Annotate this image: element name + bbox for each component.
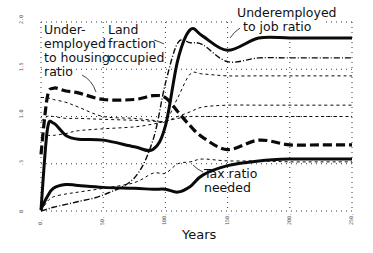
x-tick-label: 200. (286, 213, 292, 225)
y-tick-label: 0 (18, 210, 24, 213)
annotation-line: Tax ratio (203, 166, 257, 181)
annotation-job-ratio: Underemployed to job ratio (230, 5, 337, 38)
annotation-line: Land (108, 22, 138, 37)
annotation-housing-ratio: Under- employed to housing ratio (44, 22, 110, 92)
series-underemployed-to-housing-ratio (41, 88, 352, 154)
annotation-line: ratio (44, 64, 73, 79)
annotation-line: occupied (108, 50, 164, 65)
x-tick-label: 250. (348, 213, 354, 225)
annotation-pointer (82, 75, 96, 92)
x-axis-title: Years (181, 227, 217, 242)
series-tax-ratio-needed (41, 159, 352, 209)
annotation-line: to housing (44, 50, 110, 65)
x-tick-label: 150. (224, 213, 230, 225)
line-chart: 0.50.100.150.200.250.2.01.51.0.50 Under-… (0, 0, 373, 253)
annotation-line: to job ratio (243, 19, 311, 34)
annotation-tax-ratio: Tax ratio needed (193, 165, 257, 195)
annotation-line: employed (44, 36, 106, 51)
y-tick-label: 1.0 (18, 109, 24, 118)
x-tick-label: 50. (99, 216, 105, 225)
series-auxiliary-series-d-dashed (41, 72, 352, 123)
annotation-land-fraction: Land fraction occupied (108, 22, 164, 65)
y-tick-label: .5 (18, 160, 24, 166)
annotation-line: needed (204, 180, 251, 195)
y-tick-label: 1.5 (18, 62, 24, 71)
annotation-line: Under- (44, 22, 86, 37)
y-tick-label: 2.0 (18, 15, 24, 24)
x-tick-label: 100. (161, 213, 167, 225)
series-auxiliary-series-b-dashed (41, 105, 352, 122)
annotation-line: fraction (108, 36, 156, 51)
annotation-line: Underemployed (237, 5, 337, 20)
annotation-pointer (193, 165, 203, 172)
series-auxiliary-series-c-dashed (41, 116, 352, 135)
x-tick-label: 0. (37, 219, 43, 225)
